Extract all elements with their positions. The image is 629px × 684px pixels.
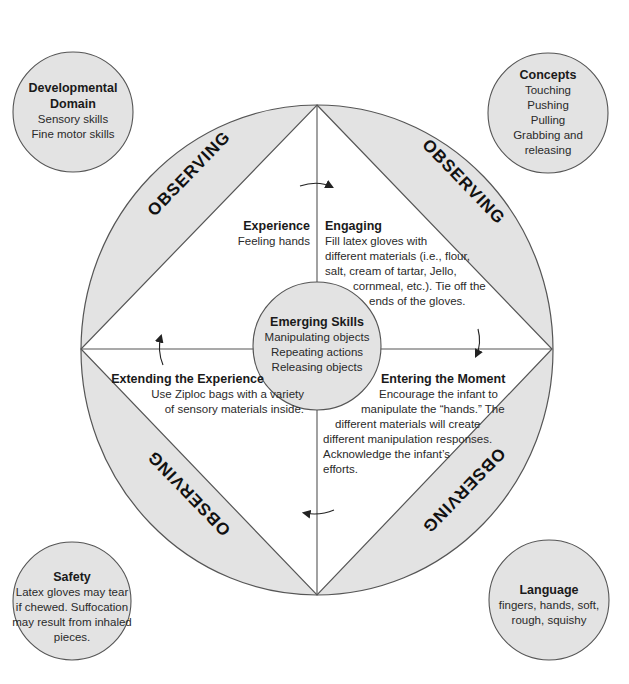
engaging-line: ends of the gloves. bbox=[325, 294, 485, 309]
language-content: Language fingers, hands, soft, rough, sq… bbox=[489, 582, 609, 628]
entering-line: manipulate the “hands.” The bbox=[323, 402, 513, 417]
engaging-line: salt, cream of tartar, Jello, bbox=[325, 264, 485, 279]
experience-line: Feeling hands bbox=[200, 234, 310, 249]
experience-title: Experience bbox=[200, 218, 310, 234]
safety-title: Safety bbox=[12, 569, 132, 585]
entering-section: Entering the Moment Encourage the infant… bbox=[323, 371, 513, 477]
concepts-content: Concepts Touching Pushing Pulling Grabbi… bbox=[498, 67, 598, 158]
concepts-title: Concepts bbox=[498, 67, 598, 83]
experience-section: Experience Feeling hands bbox=[200, 218, 310, 249]
entering-line: Acknowledge the infant’s bbox=[323, 447, 513, 462]
emerging-skills-content: Emerging Skills Manipulating objects Rep… bbox=[252, 314, 382, 375]
safety-content: Safety Latex gloves may tear if chewed. … bbox=[12, 569, 132, 645]
extending-line: Use Ziploc bags with a variety bbox=[100, 387, 304, 402]
developmental-domain-title-line-2: Domain bbox=[23, 96, 123, 112]
emerging-skills-title: Emerging Skills bbox=[252, 314, 382, 330]
developmental-domain-content: Developmental Domain Sensory skills Fine… bbox=[23, 80, 123, 142]
activity-web-diagram: OBSERVING OBSERVING OBSERVING OBSERVING … bbox=[0, 0, 629, 684]
emerging-skill-item: Manipulating objects bbox=[252, 330, 382, 345]
safety-line: pieces. bbox=[12, 630, 132, 645]
concepts-item: Touching bbox=[498, 83, 598, 98]
developmental-domain-item: Fine motor skills bbox=[23, 127, 123, 142]
language-title: Language bbox=[489, 582, 609, 598]
entering-line: different manipulation responses. bbox=[323, 432, 513, 447]
extending-line: of sensory materials inside. bbox=[100, 402, 304, 417]
concepts-item: Grabbing and bbox=[498, 128, 598, 143]
safety-line: Latex gloves may tear bbox=[12, 585, 132, 600]
entering-line: Encourage the infant to bbox=[323, 387, 513, 402]
developmental-domain-item: Sensory skills bbox=[23, 112, 123, 127]
engaging-section: Engaging Fill latex gloves with differen… bbox=[325, 218, 485, 309]
safety-line: if chewed. Suffocation bbox=[12, 600, 132, 615]
entering-line: efforts. bbox=[323, 462, 513, 477]
concepts-item: Pulling bbox=[498, 113, 598, 128]
engaging-line: different materials (i.e., flour, bbox=[325, 249, 485, 264]
language-line: fingers, hands, soft, bbox=[489, 598, 609, 613]
concepts-item: Pushing bbox=[498, 98, 598, 113]
engaging-line: cornmeal, etc.). Tie off the bbox=[325, 279, 485, 294]
language-line: rough, squishy bbox=[489, 613, 609, 628]
entering-title: Entering the Moment bbox=[323, 371, 513, 387]
extending-section: Extending the Experience Use Ziploc bags… bbox=[100, 371, 304, 417]
entering-line: different materials will create bbox=[323, 417, 513, 432]
engaging-title: Engaging bbox=[325, 218, 485, 234]
concepts-item: releasing bbox=[498, 143, 598, 158]
engaging-line: Fill latex gloves with bbox=[325, 234, 485, 249]
emerging-skill-item: Repeating actions bbox=[252, 345, 382, 360]
developmental-domain-title-line-1: Developmental bbox=[23, 80, 123, 96]
safety-line: may result from inhaled bbox=[12, 615, 132, 630]
extending-title: Extending the Experience bbox=[100, 371, 304, 387]
